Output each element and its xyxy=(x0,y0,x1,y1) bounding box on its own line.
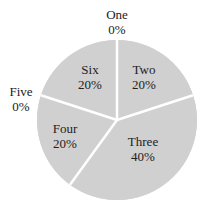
label-three-pct: 40% xyxy=(128,149,158,164)
label-one-name: One xyxy=(106,7,128,22)
label-four: Four 20% xyxy=(53,121,78,151)
label-one-pct: 0% xyxy=(106,22,128,37)
label-five-pct: 0% xyxy=(9,99,32,114)
label-five-name: Five xyxy=(9,84,32,99)
label-one: One 0% xyxy=(106,7,128,37)
pie-slices xyxy=(37,40,197,200)
label-six-name: Six xyxy=(78,62,102,77)
label-two-name: Two xyxy=(132,62,156,77)
label-six-pct: 20% xyxy=(78,77,102,92)
label-three-name: Three xyxy=(128,134,158,149)
label-six: Six 20% xyxy=(78,62,102,92)
label-two: Two 20% xyxy=(132,62,156,92)
label-two-pct: 20% xyxy=(132,77,156,92)
label-four-pct: 20% xyxy=(53,136,78,151)
label-four-name: Four xyxy=(53,121,78,136)
label-five: Five 0% xyxy=(9,84,32,114)
label-three: Three 40% xyxy=(128,134,158,164)
